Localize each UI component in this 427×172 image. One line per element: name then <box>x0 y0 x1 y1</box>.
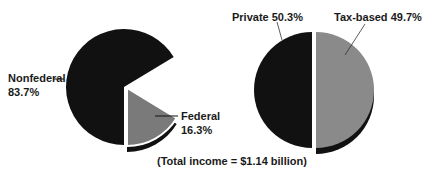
pie-charts <box>0 0 427 172</box>
slice-federal <box>127 88 177 146</box>
label-taxbased: Tax-based 49.7% <box>334 11 422 24</box>
label-private: Private 50.3% <box>232 11 303 24</box>
label-federal-name: Federal <box>181 110 220 123</box>
pie-federal-nonfederal <box>54 29 178 152</box>
slice-taxbased <box>316 32 374 148</box>
label-nonfederal-name: Nonfederal <box>8 72 65 85</box>
pie-private-taxbased <box>254 22 374 154</box>
footnote-total-income: (Total income = $1.14 billion) <box>157 155 307 168</box>
slice-private <box>254 32 312 148</box>
label-federal-pct: 16.3% <box>181 124 212 137</box>
label-nonfederal-pct: 83.7% <box>8 86 39 99</box>
